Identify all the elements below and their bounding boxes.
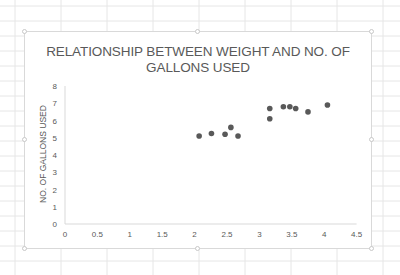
x-tick-label: 2.5 [221,230,233,239]
x-tick-label: 4 [322,230,327,239]
x-tick-label: 3.5 [286,230,298,239]
y-tick-label: 1 [53,203,58,212]
data-point[interactable] [196,133,202,139]
data-point[interactable] [222,132,228,138]
y-tick-label: 7 [53,99,58,108]
x-tick-label: 1.5 [157,230,169,239]
y-tick-label: 2 [53,186,58,195]
x-tick-label: 2 [192,230,197,239]
y-tick-label: 4 [53,151,58,160]
data-point[interactable] [267,116,273,122]
x-tick-label: 0.5 [92,230,104,239]
data-point[interactable] [235,133,241,139]
data-point[interactable] [281,104,287,110]
x-tick-label: 1 [128,230,133,239]
plot-area[interactable]: 01234567800.511.522.533.544.5 [0,0,400,275]
data-point[interactable] [228,125,234,131]
data-point[interactable] [293,106,299,112]
y-tick-label: 0 [53,220,58,229]
x-tick-label: 4.5 [351,230,363,239]
y-tick-label: 8 [53,82,58,91]
y-tick-label: 3 [53,168,58,177]
x-tick-label: 0 [63,230,68,239]
y-tick-label: 6 [53,117,58,126]
data-point[interactable] [287,104,293,110]
data-point[interactable] [209,131,215,137]
data-point[interactable] [305,109,311,115]
y-tick-label: 5 [53,134,58,143]
x-tick-label: 3 [257,230,262,239]
data-point[interactable] [325,102,331,108]
data-point[interactable] [267,106,273,112]
